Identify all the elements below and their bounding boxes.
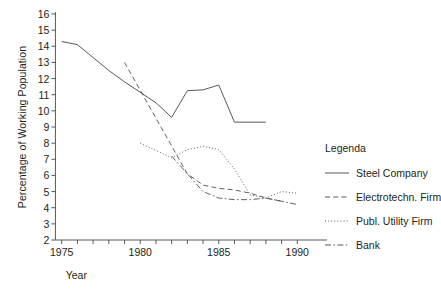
legend-label: Electrotechn. Firm <box>356 191 441 203</box>
legend-swatch-dashed <box>325 193 349 201</box>
legend-label: Bank <box>356 239 380 251</box>
series-line-bank <box>172 156 298 204</box>
legend-label: Publ. Utility Firm <box>356 215 432 227</box>
y-tick-label: 16 <box>23 9 49 20</box>
x-tick-label: 1985 <box>199 247 239 258</box>
legend-swatch-dashdot <box>325 241 349 249</box>
x-tick-label: 1990 <box>277 247 317 258</box>
legend-title: Legenda <box>325 142 366 154</box>
series-line-steel-company <box>62 41 266 122</box>
legend-item-publ-utility-firm[interactable]: Publ. Utility Firm <box>325 215 432 227</box>
legend-label: Steel Company <box>356 167 428 179</box>
legend-item-bank[interactable]: Bank <box>325 239 380 251</box>
legend-item-electrotechn-firm[interactable]: Electrotechn. Firm <box>325 191 441 203</box>
legend-swatch-solid <box>325 169 349 177</box>
legend-item-steel-company[interactable]: Steel Company <box>325 167 428 179</box>
legend-swatch-dotted <box>325 217 349 225</box>
x-tick-label: 1980 <box>120 247 160 258</box>
x-tick-label: 1975 <box>42 247 82 258</box>
x-axis-title: Year <box>66 269 87 281</box>
y-tick-label: 2 <box>23 235 49 246</box>
y-axis-title: Percentage of Working Population <box>16 32 28 222</box>
series-line-publ-utility-firm <box>140 143 297 198</box>
series-line-electrotechn-firm <box>125 62 282 201</box>
